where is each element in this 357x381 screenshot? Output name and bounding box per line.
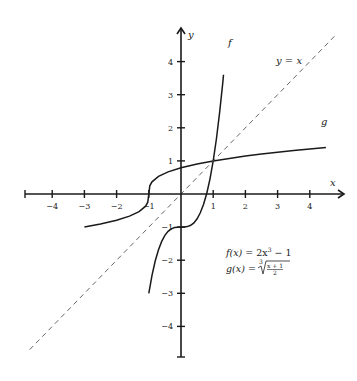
g-curve-label: g [321, 116, 327, 127]
x-tick-label: −3 [79, 202, 91, 211]
y-tick-label: −4 [161, 322, 173, 331]
series-g-line [84, 148, 326, 228]
eq-g-denominator: 2 [273, 269, 277, 276]
eq-g-numerator: x + 1 [267, 262, 283, 269]
y-axis-label: y [187, 29, 194, 40]
equation-f: f(x) = 2x3 − 1 [225, 246, 292, 258]
svg-text:g(x) =: g(x) = [226, 263, 256, 274]
series-layer [30, 35, 336, 350]
eq-f-rhs-a: = 2x [242, 247, 268, 258]
f-curve-label: f [227, 37, 234, 48]
y-tick-label: 4 [168, 58, 173, 67]
x-tick-label: −4 [46, 202, 58, 211]
y-tick-label: 2 [168, 124, 173, 133]
y-tick-label: −2 [161, 256, 173, 265]
series-f-line [149, 75, 224, 293]
y-tick-label: 1 [168, 157, 173, 166]
eq-g-equals: = [245, 263, 256, 274]
x-tick-label: 3 [275, 202, 280, 211]
x-axis-label: x [330, 177, 336, 188]
x-tick-label: −2 [111, 202, 123, 211]
equation-g: g(x) = 3 x + 1 2 [226, 258, 290, 276]
y-tick-label: −3 [161, 289, 173, 298]
function-plot: −4−3−2−11234−4−3−2−11234 x y f g y = x f… [0, 0, 357, 381]
eq-f-lhs: f(x) [225, 247, 243, 258]
svg-text:f(x) = 2x3 − 1: f(x) = 2x3 − 1 [225, 246, 292, 258]
eq-g-root-index: 3 [259, 258, 263, 265]
eq-g-lhs: g(x) [226, 263, 245, 274]
series-y-x-line [30, 35, 336, 350]
x-tick-label: 4 [307, 202, 312, 211]
x-tick-label: 2 [243, 202, 248, 211]
eq-f-rhs-b: − 1 [272, 247, 292, 258]
x-tick-label: 1 [211, 202, 216, 211]
identity-line-label: y = x [275, 55, 302, 66]
y-tick-label: −1 [161, 223, 173, 232]
y-tick-label: 3 [168, 91, 173, 100]
